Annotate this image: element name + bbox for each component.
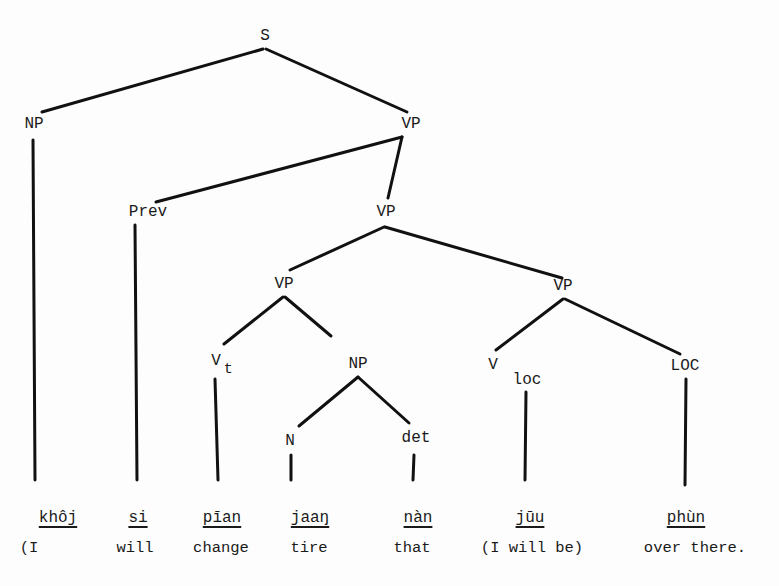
word-phun: phùn [667,510,705,526]
gloss-that: that [393,541,430,557]
node-v-transitive-subscript: t [224,361,233,378]
gloss-over-there: over there. [644,541,746,557]
word-nan: nàn [404,510,433,526]
node-v-loc-subscript: loc [513,372,542,388]
node-prev: Prev [129,204,167,220]
word-khoj: khôj [39,510,77,526]
gloss-will: will [116,541,153,557]
node-vp-mid: VP [376,204,395,220]
gloss-change: change [193,541,249,557]
word-jaan: jaaŋ [291,510,329,526]
syntax-tree-diagram: S NP VP Prev VP VP VP Vt NP V loc LOC N … [0,0,779,586]
node-loc: LOC [671,358,700,374]
node-v-loc: V [488,357,498,373]
node-n: N [285,433,295,449]
word-si: si [128,510,147,526]
gloss-i: (I [20,541,39,557]
node-vp-right: VP [553,278,572,294]
node-np-subject: NP [24,116,43,132]
gloss-i-will-be: (I will be) [481,541,583,557]
word-pian: pīan [203,510,241,526]
tree-edges [0,0,779,586]
node-vp-left: VP [274,276,293,292]
node-np-object: NP [348,356,367,372]
node-v-transitive-base: V [211,352,221,370]
word-juu: jūu [516,510,545,526]
node-vp-top: VP [401,116,420,132]
gloss-tire: tire [290,541,327,557]
node-s: S [260,28,270,44]
node-det: det [402,430,431,446]
node-v-transitive: Vt [211,353,233,369]
